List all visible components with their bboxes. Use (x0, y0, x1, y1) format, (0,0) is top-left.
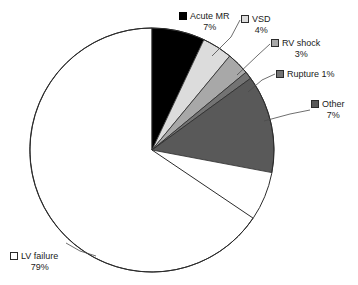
pie-label-other[interactable]: Other 7% (311, 99, 345, 120)
pie-label-rv-shock-name: RV shock (282, 38, 320, 49)
pie-chart-figure: Acute MR 7% VSD 4% RV shock 3% Rupture 1… (0, 0, 358, 285)
pie-label-other-text: Other 7% (322, 99, 345, 120)
pie-label-rupture-name: Rupture 1% (287, 69, 335, 79)
pie-label-lv-failure-name: LV failure (21, 251, 58, 262)
leader-line-rv-shock (237, 44, 270, 75)
pie-label-acute-mr-name: Acute MR (190, 11, 230, 22)
pie-label-acute-mr[interactable]: Acute MR 7% (179, 11, 230, 32)
pie-label-vsd-name: VSD (252, 14, 271, 25)
pie-label-rv-shock-pct: 3% (282, 49, 320, 60)
pie-label-rv-shock-text: RV shock 3% (282, 38, 320, 59)
legend-swatch-lv-failure (10, 252, 18, 260)
legend-swatch-vsd (241, 15, 249, 23)
pie-label-lv-failure-pct: 79% (21, 262, 58, 273)
legend-swatch-rupture (276, 70, 284, 78)
leader-line-other (264, 110, 310, 121)
legend-swatch-other (311, 100, 319, 108)
pie-label-vsd[interactable]: VSD 4% (241, 14, 271, 35)
pie-label-rv-shock[interactable]: RV shock 3% (271, 38, 320, 59)
pie-label-acute-mr-pct: 7% (190, 22, 230, 33)
pie-label-other-pct: 7% (322, 110, 345, 121)
pie-label-lv-failure[interactable]: LV failure 79% (10, 251, 58, 272)
pie-label-rupture[interactable]: Rupture 1% (276, 69, 335, 80)
pie-label-other-name: Other (322, 99, 345, 110)
pie-label-vsd-pct: 4% (252, 25, 271, 36)
pie-label-lv-failure-text: LV failure 79% (21, 251, 58, 272)
legend-swatch-acute-mr (179, 12, 187, 20)
legend-swatch-rv-shock (271, 39, 279, 47)
pie-label-vsd-text: VSD 4% (252, 14, 271, 35)
pie-label-acute-mr-text: Acute MR 7% (190, 11, 230, 32)
pie-label-rupture-text: Rupture 1% (287, 69, 335, 80)
